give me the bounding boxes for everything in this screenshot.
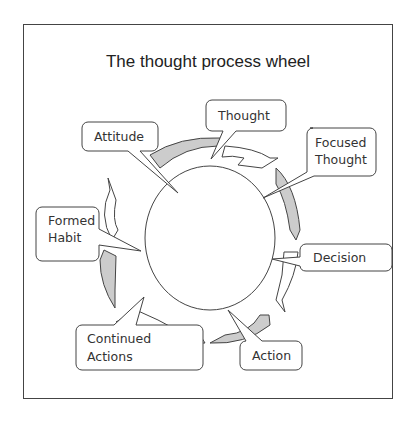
- arrow-thought-to-focused: [222, 146, 278, 168]
- arrow-habit-to-attitude: [100, 250, 116, 308]
- node-action-label: Action: [252, 347, 291, 364]
- node-focused-line2: Thought: [315, 151, 367, 168]
- node-decision-label: Decision: [313, 249, 366, 266]
- node-focused-line1: Focused: [315, 134, 366, 151]
- center-circle: [145, 166, 275, 310]
- node-habit-line2: Habit: [48, 229, 81, 246]
- node-continued-line1: Continued: [87, 330, 151, 347]
- arrow-formed-up: [104, 178, 118, 240]
- arrow-attitude-to-thought: [150, 138, 220, 168]
- node-continued-line2: Actions: [87, 348, 133, 365]
- node-thought-label: Thought: [218, 107, 270, 124]
- node-attitude-label: Attitude: [94, 128, 144, 145]
- node-habit-line1: Formed: [48, 212, 95, 229]
